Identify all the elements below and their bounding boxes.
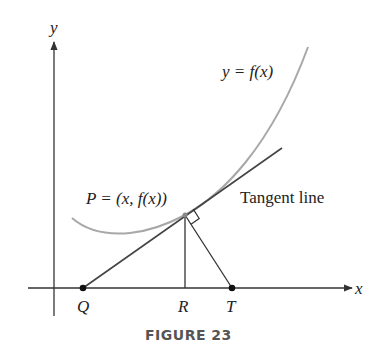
point-p-label: P = (x, f(x)) (85, 189, 167, 208)
y-axis-label: y (48, 18, 58, 37)
point-t (229, 285, 236, 292)
point-p (183, 213, 188, 218)
tangent-line (83, 148, 282, 288)
point-q (80, 285, 87, 292)
tangent-label: Tangent line (240, 188, 324, 207)
point-r-label: R (177, 297, 189, 316)
point-q-label: Q (77, 297, 89, 316)
tangent-line-diagram: y x y = f(x) Tangent line P = (x, f(x)) … (0, 0, 378, 355)
figure-caption: FIGURE 23 (145, 327, 232, 343)
curve-label: y = f(x) (220, 62, 273, 81)
point-t-label: T (226, 297, 237, 316)
normal-segment-pt (185, 215, 232, 288)
x-axis-label: x (354, 279, 363, 298)
